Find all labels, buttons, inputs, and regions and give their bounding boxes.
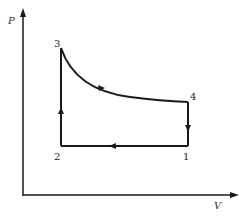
arrow-down-icon bbox=[185, 125, 191, 132]
arrow-up-icon bbox=[58, 107, 64, 114]
point-label-3: 3 bbox=[54, 38, 60, 49]
y-axis-label: P bbox=[7, 15, 15, 26]
point-label-2: 2 bbox=[54, 151, 60, 162]
x-axis-arrow-icon bbox=[230, 192, 239, 198]
x-axis-label: V bbox=[214, 200, 223, 211]
point-label-4: 4 bbox=[190, 91, 196, 102]
y-axis-arrow-icon bbox=[20, 8, 26, 17]
path-3-4 bbox=[61, 48, 188, 102]
axes: P V bbox=[7, 8, 239, 211]
cycle bbox=[61, 48, 188, 146]
arrow-left-icon bbox=[109, 143, 116, 149]
pv-diagram: P V 1 2 3 4 bbox=[0, 0, 250, 219]
point-label-1: 1 bbox=[183, 151, 189, 162]
